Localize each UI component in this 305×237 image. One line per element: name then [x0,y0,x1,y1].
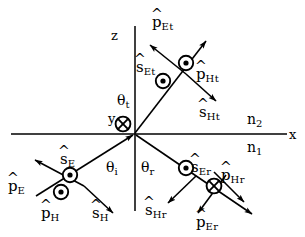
p-hat-E-label: ^pE [8,178,25,196]
s-hat-Hr-label: ^sHr [145,202,167,220]
physics-ray-diagram: z x y n2 n1 θi θr θt ^pE ^sE ^pH ^sH ^sE… [0,0,305,237]
s-hat-Er-label: ^sEr [191,159,211,177]
refractive-index-upper: n2 [247,111,263,129]
x-axis-label: x [289,126,296,142]
marker-p-hat-Hr [207,179,222,194]
refractive-index-lower: n1 [247,139,263,157]
p-hat-Et-label: ^pEt [152,14,174,32]
marker-y-axis [116,117,131,132]
s-hat-H-label: ^sH [92,205,109,223]
marker-s-hat-Et [156,74,170,88]
theta-transmitted-label: θt [117,92,130,110]
p-hat-Ht-label: ^pHt [196,66,219,84]
p-hat-Er-label: ^pEr [196,214,218,232]
marker-p-hat-Ht [179,56,193,70]
s-hat-Ht-label: ^sHt [199,104,220,122]
marker-p-hat-H [54,185,68,199]
marker-s-hat-E [63,168,77,182]
z-axis-label: z [111,27,118,43]
theta-incident-label: θi [106,159,118,177]
p-hat-Hr-label: ^pHr [221,167,245,185]
s-hat-Hr-arrow [168,176,196,203]
s-hat-Et-label: ^sEt [136,59,156,77]
theta-reflected-label: θr [141,159,155,177]
s-hat-E-label: ^sE [60,151,75,169]
p-hat-H-label: ^pH [41,205,60,223]
y-axis-label: y [108,110,115,126]
